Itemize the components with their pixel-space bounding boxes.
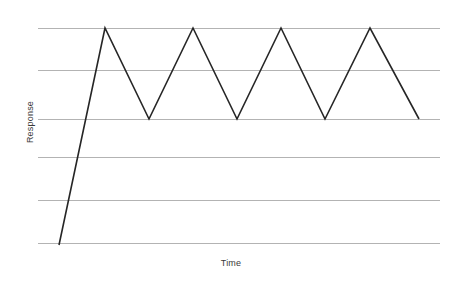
data-series-group <box>59 28 419 245</box>
plot-area <box>0 0 462 284</box>
y-axis-label: Response <box>25 62 35 182</box>
chart-figure: Response Time <box>0 0 462 284</box>
x-axis-label: Time <box>0 258 462 268</box>
data-series-line <box>59 28 419 245</box>
